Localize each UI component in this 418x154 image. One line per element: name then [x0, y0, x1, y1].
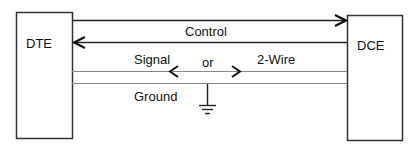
- two-wire-label: 2-Wire: [257, 52, 295, 67]
- dte-box: [17, 13, 73, 139]
- or-label: or: [202, 55, 214, 70]
- dce-label: DCE: [357, 38, 384, 53]
- dte-label: DTE: [26, 36, 52, 51]
- ground-icon: [199, 84, 216, 114]
- signal-label: Signal: [134, 52, 170, 67]
- ground-label: Ground: [134, 89, 177, 104]
- dce-box: [348, 16, 403, 141]
- control-label: Control: [185, 24, 227, 39]
